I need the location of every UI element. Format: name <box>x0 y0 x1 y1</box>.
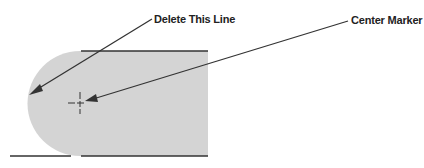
slot-shape <box>28 51 209 156</box>
center-marker-label: Center Marker <box>351 14 422 26</box>
delete-line-label: Delete This Line <box>154 13 235 25</box>
